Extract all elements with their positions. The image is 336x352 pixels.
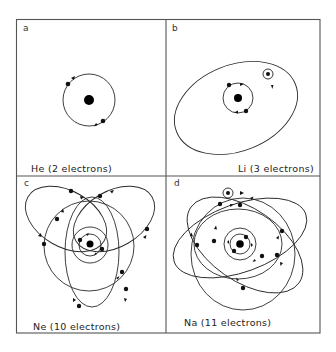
electron-icon bbox=[66, 82, 71, 87]
direction-arrow-icon bbox=[271, 85, 274, 89]
electron-icon bbox=[280, 229, 284, 233]
orbit-shell-2 bbox=[161, 44, 312, 172]
direction-arrow-icon bbox=[94, 253, 97, 256]
electron-icon bbox=[101, 119, 106, 124]
electron-icon bbox=[77, 304, 81, 308]
electron-icon bbox=[260, 254, 264, 258]
orbit-shell-2a bbox=[163, 182, 318, 294]
direction-arrow-icon bbox=[94, 123, 98, 127]
electron-icon bbox=[232, 249, 236, 253]
nucleus-icon bbox=[84, 95, 94, 105]
electron-icon bbox=[120, 270, 124, 274]
direction-arrow-icon bbox=[110, 190, 114, 194]
panel-b-lithium: b Li (3 electrons) bbox=[161, 23, 314, 174]
panel-letter-b: b bbox=[172, 23, 178, 33]
electron-icon bbox=[124, 287, 128, 291]
panel-a-helium: a He (2 electrons) bbox=[23, 23, 115, 174]
panel-letter-a: a bbox=[23, 23, 29, 33]
caption-sodium: Na (11 electrons) bbox=[184, 317, 271, 328]
electron-icon bbox=[145, 227, 149, 231]
electron-icon bbox=[55, 217, 59, 221]
electron-icon bbox=[275, 253, 279, 257]
direction-arrow-icon bbox=[280, 262, 283, 266]
caption-helium: He (2 electrons) bbox=[31, 163, 112, 174]
direction-arrow-icon bbox=[143, 235, 147, 239]
nucleus-icon bbox=[87, 241, 94, 248]
panel-d-sodium: d Na (11 electrons) bbox=[163, 178, 320, 328]
direction-arrow-icon bbox=[240, 191, 244, 195]
electron-icon bbox=[227, 83, 231, 87]
direction-arrow-icon bbox=[253, 259, 257, 262]
electron-icon bbox=[78, 238, 82, 242]
direction-arrow-icon bbox=[214, 226, 217, 230]
direction-arrow-icon bbox=[230, 204, 234, 207]
electron-icon bbox=[195, 243, 199, 247]
electron-icon bbox=[69, 189, 73, 193]
valence-electron-icon bbox=[226, 191, 230, 195]
electron-icon bbox=[241, 286, 245, 290]
atomic-orbit-diagram: a He (2 electrons) b Li (3 electrons) c bbox=[0, 0, 336, 352]
electron-icon bbox=[98, 194, 102, 198]
panel-letter-c: c bbox=[24, 178, 29, 188]
electron-icon bbox=[238, 203, 242, 207]
direction-arrow-icon bbox=[227, 240, 229, 244]
direction-arrow-icon bbox=[251, 243, 253, 247]
valence-electron-icon bbox=[266, 72, 270, 76]
panel-letter-d: d bbox=[174, 178, 180, 188]
direction-arrow-icon bbox=[276, 236, 279, 240]
electron-icon bbox=[218, 202, 222, 206]
nucleus-icon bbox=[236, 240, 244, 248]
panel-c-neon: c Ne (10 electrons) bbox=[14, 173, 166, 332]
electron-icon bbox=[244, 235, 248, 239]
nucleus-icon bbox=[234, 94, 242, 102]
caption-lithium: Li (3 electrons) bbox=[238, 163, 314, 174]
electron-icon bbox=[42, 242, 46, 246]
direction-arrow-icon bbox=[73, 298, 76, 302]
electron-icon bbox=[244, 109, 248, 113]
direction-arrow-icon bbox=[124, 298, 127, 302]
caption-neon: Ne (10 electrons) bbox=[33, 321, 120, 332]
electron-icon bbox=[212, 239, 216, 243]
electron-icon bbox=[100, 247, 104, 251]
